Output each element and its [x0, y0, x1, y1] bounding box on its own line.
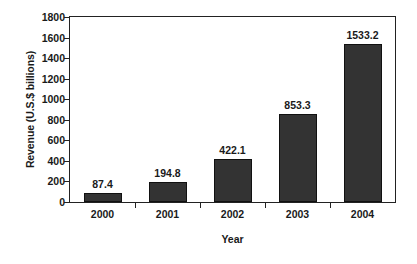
bar-group[interactable]: 194.8 — [135, 17, 200, 202]
x-axis-title: Year — [70, 233, 395, 245]
y-axis-tick-label: 1000 — [31, 94, 65, 104]
bar-group[interactable]: 1533.2 — [330, 17, 395, 202]
x-axis-tick-label: 2001 — [135, 208, 200, 220]
y-axis-tick-label: 800 — [31, 115, 65, 125]
bars-layer: 87.4194.8422.1853.31533.2 — [70, 17, 395, 202]
x-axis-tick-label: 2003 — [265, 208, 330, 220]
bar-value-label: 422.1 — [200, 145, 265, 156]
y-axis-tick-label: 600 — [31, 135, 65, 145]
y-axis-tick-label: 400 — [31, 156, 65, 166]
x-axis-tick-label: 2002 — [200, 208, 265, 220]
bar-group[interactable]: 87.4 — [70, 17, 135, 202]
bar[interactable] — [84, 193, 122, 202]
bar-value-label: 194.8 — [135, 168, 200, 179]
bar[interactable] — [279, 114, 317, 202]
x-axis-tick-labels: 20002001200220032004 — [70, 208, 395, 220]
y-axis-tick-label: 1800 — [31, 12, 65, 22]
bar[interactable] — [149, 182, 187, 202]
y-axis-tick-label: 0 — [31, 197, 65, 207]
bar[interactable] — [344, 44, 382, 202]
bar-group[interactable]: 422.1 — [200, 17, 265, 202]
bar-value-label: 853.3 — [265, 100, 330, 111]
bar-value-label: 87.4 — [70, 179, 135, 190]
bar-value-label: 1533.2 — [330, 30, 395, 41]
y-axis-tick-label: 1200 — [31, 74, 65, 84]
bar-group[interactable]: 853.3 — [265, 17, 330, 202]
x-axis-tick-label: 2000 — [70, 208, 135, 220]
bar[interactable] — [214, 159, 252, 202]
y-axis-tick-label: 200 — [31, 176, 65, 186]
bar-chart-figure: Revenue (U.S.$ billions) 180016001400120… — [0, 0, 417, 264]
y-axis-tick-labels: 180016001400120010008006004002000 — [27, 16, 65, 203]
y-axis-tick-label: 1600 — [31, 33, 65, 43]
x-axis-tick-label: 2004 — [330, 208, 395, 220]
y-axis-tick-label: 1400 — [31, 53, 65, 63]
